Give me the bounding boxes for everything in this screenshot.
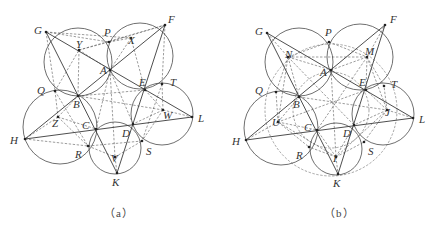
point-label-V: V xyxy=(111,152,119,164)
point-label-A: A xyxy=(99,64,107,76)
dashed-segment-VS xyxy=(115,141,142,157)
dashed-segment-NP xyxy=(288,42,329,57)
point-label-H: H xyxy=(9,134,19,146)
dashed-segment-AD xyxy=(110,70,133,124)
point-label-I: I xyxy=(332,152,338,164)
point-label-G: G xyxy=(255,25,263,37)
point-label-Y: Y xyxy=(76,38,84,50)
circle-3 xyxy=(131,83,193,145)
point-L xyxy=(412,117,415,120)
dashed-segment-AI xyxy=(331,70,336,157)
point-label-T: T xyxy=(391,78,398,90)
dashed-segment-TW xyxy=(162,84,163,110)
dashed-segment-JE xyxy=(366,90,387,110)
point-label-S: S xyxy=(368,145,374,157)
point-label-C: C xyxy=(304,121,312,133)
point-label-D: D xyxy=(342,127,351,139)
point-P xyxy=(328,41,331,44)
figure-canvas: GPFYXAQBETHZCDWLRSVK GPFNMAQBETHUCDJLRSI… xyxy=(0,0,433,225)
point-label-S: S xyxy=(146,145,152,157)
point-label-H: H xyxy=(231,135,241,147)
dashed-segment-YB xyxy=(78,50,79,96)
point-R xyxy=(308,146,311,149)
point-B xyxy=(77,95,80,98)
point-label-R: R xyxy=(295,149,303,161)
point-L xyxy=(191,116,194,119)
point-label-P: P xyxy=(324,26,332,38)
point-label-E: E xyxy=(138,76,146,88)
point-P xyxy=(108,41,111,44)
point-A xyxy=(109,69,112,72)
point-label-R: R xyxy=(74,148,82,160)
point-label-D: D xyxy=(121,127,130,139)
point-G xyxy=(266,32,269,35)
diagram-panel-b: GPFNMAQBETHUCDJLRSIK xyxy=(231,13,425,189)
point-F xyxy=(164,24,167,27)
point-label-B: B xyxy=(73,98,80,110)
dashed-segment-YP xyxy=(79,42,109,50)
dashed-segment-BW xyxy=(78,96,163,110)
dashed-segment-RS xyxy=(88,141,142,146)
point-K xyxy=(116,172,119,175)
point-E xyxy=(365,89,368,92)
point-H xyxy=(245,139,248,142)
point-label-F: F xyxy=(389,13,397,25)
caption-b: （b） xyxy=(324,204,355,220)
point-label-Q: Q xyxy=(255,84,263,96)
point-label-F: F xyxy=(167,13,175,25)
point-A xyxy=(330,69,333,72)
dashed-segment-GX xyxy=(46,32,131,38)
point-F xyxy=(384,24,387,27)
point-D xyxy=(353,124,356,127)
point-E xyxy=(144,89,147,92)
point-label-K: K xyxy=(332,177,341,189)
point-T xyxy=(383,85,386,88)
point-Q xyxy=(54,90,57,93)
point-D xyxy=(132,123,135,126)
point-S xyxy=(363,141,366,144)
point-label-Q: Q xyxy=(37,84,45,96)
point-label-E: E xyxy=(358,76,366,88)
point-Q xyxy=(275,91,278,94)
dashed-segment-MA xyxy=(331,57,367,70)
point-label-Z: Z xyxy=(52,117,59,129)
point-T xyxy=(161,83,164,86)
point-label-N: N xyxy=(284,48,293,60)
point-R xyxy=(87,145,90,148)
point-label-P: P xyxy=(103,26,111,38)
point-label-W: W xyxy=(163,109,173,121)
dashed-segment-TS xyxy=(142,84,162,141)
point-label-A: A xyxy=(319,66,327,78)
point-label-B: B xyxy=(293,98,300,110)
dashed-segment-WS xyxy=(142,110,163,141)
point-label-T: T xyxy=(170,76,177,88)
point-C xyxy=(95,128,98,131)
point-C xyxy=(316,129,319,132)
caption-a: （a） xyxy=(104,204,134,220)
dashed-segment-JD xyxy=(354,110,387,125)
point-label-M: M xyxy=(364,45,375,57)
point-K xyxy=(337,173,340,176)
point-label-L: L xyxy=(197,112,204,124)
point-label-C: C xyxy=(82,119,90,131)
point-H xyxy=(24,138,27,141)
dashed-segment-JS xyxy=(364,110,387,142)
point-label-L: L xyxy=(418,113,425,125)
diagram-panel-a: GPFYXAQBETHZCDWLRSVK xyxy=(9,13,204,188)
dashed-segment-IR xyxy=(309,147,336,157)
dashed-segment-HR xyxy=(25,139,88,146)
dashed-segment-JL xyxy=(387,110,413,118)
point-S xyxy=(141,140,144,143)
point-label-U: U xyxy=(272,116,281,128)
point-label-X: X xyxy=(127,34,136,46)
point-label-K: K xyxy=(111,176,120,188)
point-G xyxy=(45,31,48,34)
point-label-G: G xyxy=(34,24,42,36)
point-label-J: J xyxy=(385,106,391,118)
